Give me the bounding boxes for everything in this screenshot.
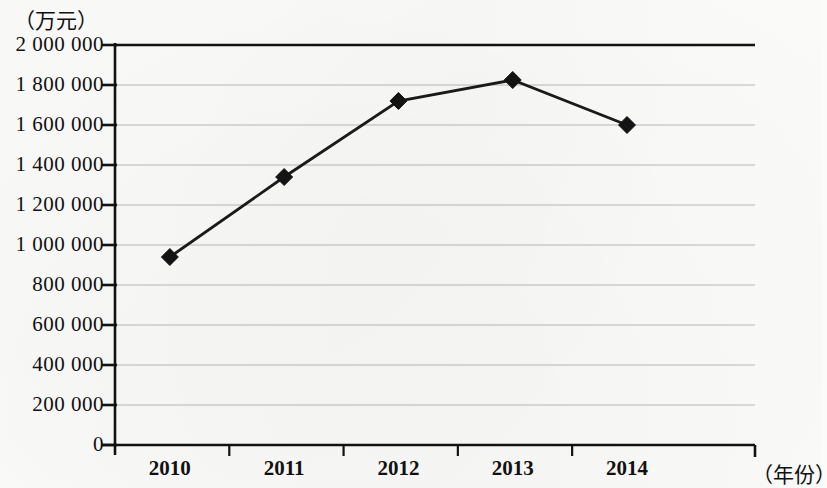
data-point-marker [504,72,521,89]
data-point-marker [619,117,636,134]
axes [101,43,755,457]
gridlines [115,45,755,405]
data-point-marker [390,93,407,110]
data-point-marker [276,169,293,186]
data-point-marker [161,249,178,266]
